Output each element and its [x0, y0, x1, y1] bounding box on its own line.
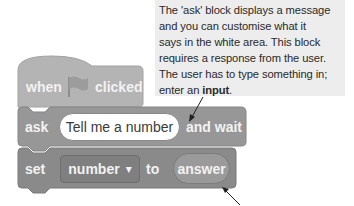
variable-name: number [68, 161, 119, 177]
callout-line: The 'ask' block displays a message [159, 2, 345, 18]
explanation-callout: The 'ask' block displays a message and y… [155, 0, 345, 96]
ask-label: ask [25, 119, 48, 135]
callout-text: . [229, 84, 232, 96]
when-label: when [26, 79, 62, 95]
answer-reporter[interactable]: answer [173, 153, 230, 184]
callout-line: and you can customise what it [159, 18, 345, 34]
callout-bold-term: input [202, 84, 229, 96]
callout-line: The user has to type something in; [159, 66, 345, 82]
variable-dropdown[interactable]: number ▾ [60, 155, 140, 183]
callout-text: enter an [159, 84, 202, 96]
chevron-down-icon: ▾ [126, 162, 132, 176]
to-label: to [146, 161, 159, 177]
callout-line: requires a response from the user. [159, 50, 345, 66]
arrow-to-answer [222, 187, 240, 205]
and-wait-label: and wait [186, 119, 242, 135]
callout-line: enter an input. [159, 82, 345, 98]
ask-question-input[interactable]: Tell me a number [59, 113, 180, 141]
set-label: set [25, 161, 45, 177]
callout-line: says in the white area. This block [159, 34, 345, 50]
clicked-label: clicked [95, 79, 142, 95]
